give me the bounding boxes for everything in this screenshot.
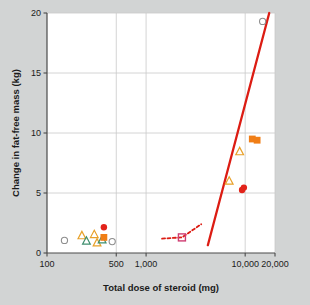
scatter-chart-figure: 05101520 1005001,00010,00020,000 Change … [0, 0, 310, 305]
chart-canvas: 05101520 1005001,00010,00020,000 Change … [0, 0, 310, 305]
y-tick-label: 5 [36, 188, 41, 198]
x-axis-title: Total dose of steroid (mg) [103, 282, 219, 293]
data-point-circle-filled-13 [241, 184, 247, 190]
x-tick-label: 1,000 [135, 259, 158, 269]
x-tick-label: 20,000 [261, 259, 289, 269]
y-tick-label: 0 [36, 248, 41, 258]
data-point-square-filled-7 [100, 234, 107, 241]
y-tick-label: 10 [31, 128, 41, 138]
x-tick-label: 100 [39, 259, 54, 269]
data-point-square-filled-15 [254, 137, 261, 144]
data-point-circle-filled-6 [101, 224, 107, 230]
y-axis-title: Change in fat-free mass (kg) [10, 69, 21, 197]
y-tick-label: 15 [31, 68, 41, 78]
x-tick-label: 10,000 [231, 259, 259, 269]
y-tick-label: 20 [31, 8, 41, 18]
x-tick-label: 500 [109, 259, 124, 269]
